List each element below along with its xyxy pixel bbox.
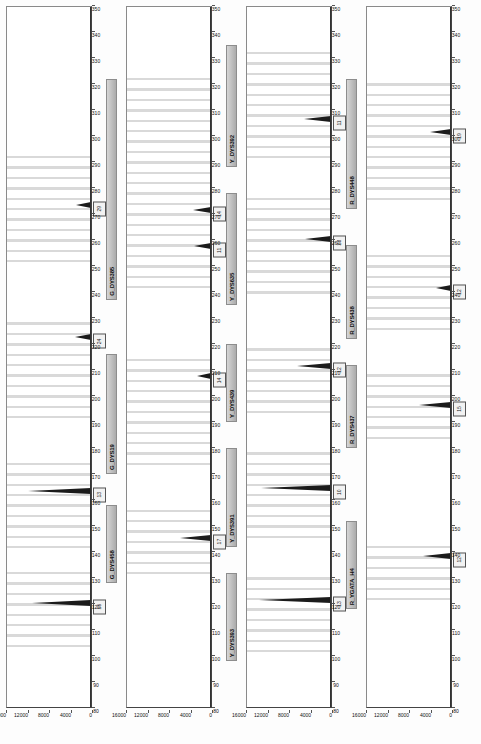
allele-bin (367, 328, 451, 330)
panel-canvas: 1310122311Y_DYS393Y_DYS391Y_DYS439Y_DYS6… (240, 0, 360, 744)
marker-bar-row: R_YGATA_H4R_DYS437R_DYS438R_DYS448 (346, 6, 358, 708)
allele-bin (127, 390, 211, 392)
axis-tick-label: 260 (332, 240, 340, 246)
marker-bar[interactable]: Y_DYS391 (226, 448, 237, 547)
allele-bin (367, 567, 451, 569)
axis-tick-label: 140 (92, 552, 100, 558)
axis-tick-label: 150 (212, 526, 220, 532)
allele-bin (7, 525, 91, 527)
allele-bin (7, 494, 91, 496)
allele-bin (367, 255, 451, 257)
rfu-tick-label: 0 (329, 712, 332, 718)
rfu-tick (6, 710, 7, 713)
plot-area[interactable] (366, 6, 452, 708)
marker-bar[interactable]: G_DYS19 (106, 354, 117, 474)
allele-bin (367, 265, 451, 267)
allele-bin (367, 187, 451, 189)
panel-y[interactable]: 1310122311Y_DYS393Y_DYS391Y_DYS439Y_DYS6… (240, 0, 360, 744)
peak[interactable] (419, 402, 451, 408)
rfu-axis: 1600012000800040000 (246, 710, 332, 744)
peak[interactable] (259, 597, 331, 603)
allele-bin (7, 250, 91, 252)
axis-tick-label: 320 (452, 84, 460, 90)
axis-tick-label: 350 (212, 6, 220, 12)
rfu-tick (126, 710, 127, 713)
peak[interactable] (304, 116, 331, 122)
axis-tick-label: 310 (92, 110, 100, 116)
allele-bin (7, 395, 91, 397)
allele-bin (367, 83, 451, 85)
axis-tick-label: 190 (92, 422, 100, 428)
peak[interactable] (180, 535, 211, 541)
allele-bin (247, 94, 331, 96)
allele-bin (7, 582, 91, 584)
panel-g[interactable]: 17141114G_DYS458G_DYS19G_DYS385809010011… (120, 0, 240, 744)
marker-bar[interactable]: Y_DYS635 (226, 193, 237, 305)
axis-tick-label: 100 (92, 656, 100, 662)
axis-tick-label: 310 (332, 110, 340, 116)
peak[interactable] (194, 243, 211, 249)
allele-bin (367, 104, 451, 106)
axis-tick-label: 250 (452, 266, 460, 272)
axis-tick-label: 120 (452, 604, 460, 610)
marker-label: R_DYS448 (347, 176, 357, 204)
marker-bar[interactable]: R_YGATA_H4 (346, 521, 357, 609)
marker-bar[interactable]: Y_DYS392 (226, 45, 237, 167)
axis-tick-label: 210 (332, 370, 340, 376)
rfu-axis: 1600012000800040000 (6, 710, 92, 744)
allele-bin (127, 572, 211, 574)
axis-tick-label: 230 (92, 318, 100, 324)
peak[interactable] (28, 488, 91, 494)
peak[interactable] (75, 334, 91, 340)
peak[interactable] (261, 485, 331, 491)
peak[interactable] (297, 363, 331, 369)
allele-bin (247, 588, 331, 590)
rfu-tick (409, 710, 410, 713)
marker-bar[interactable]: R_DYS437 (346, 365, 357, 448)
axis-tick-label: 170 (92, 474, 100, 480)
panel-r[interactable]: 12151219R_YGATA_H4R_DYS437R_DYS438R_DYS4… (360, 0, 480, 744)
plot-area[interactable] (246, 6, 332, 708)
peak[interactable] (430, 129, 451, 135)
rfu-tick (289, 710, 290, 713)
allele-bin (367, 577, 451, 579)
allele-bin (247, 452, 331, 454)
allele-bin (7, 343, 91, 345)
allele-bin (127, 400, 211, 402)
allele-bin (127, 510, 211, 512)
marker-bar[interactable]: Y_DYS439 (226, 344, 237, 422)
peak[interactable] (423, 553, 451, 559)
axis-tick-label: 230 (452, 318, 460, 324)
peak[interactable] (305, 236, 331, 242)
axis-tick-label: 280 (332, 188, 340, 194)
rfu-tick-label: 4000 (419, 712, 430, 718)
axis-tick-label: 140 (452, 552, 460, 558)
allele-bin (127, 99, 211, 101)
marker-bar[interactable]: G_DYS458 (106, 505, 117, 583)
allele-bin (127, 265, 211, 267)
marker-bar[interactable]: R_DYS448 (346, 79, 357, 209)
axis-tick-label: 280 (212, 188, 220, 194)
axis-tick-label: 220 (92, 344, 100, 350)
rfu-tick-label: 8000 (158, 712, 169, 718)
marker-bar[interactable]: G_DYS385 (106, 79, 117, 300)
allele-bin (247, 619, 331, 621)
peak[interactable] (193, 207, 211, 213)
axis-tick-label: 340 (452, 32, 460, 38)
axis-tick-label: 300 (332, 136, 340, 142)
peak[interactable] (76, 202, 91, 208)
allele-bin (127, 120, 211, 122)
panel-b[interactable]: 15132429B_DYS456B_DYS389IB_DYS390B_DYS38… (0, 0, 120, 744)
peak[interactable] (32, 600, 91, 606)
axis-tick-label: 120 (92, 604, 100, 610)
marker-label: G_DYS458 (107, 550, 117, 579)
rfu-tick (246, 710, 247, 713)
plot-area[interactable] (126, 6, 212, 708)
axis-tick-label: 320 (212, 84, 220, 90)
peak[interactable] (436, 285, 451, 291)
peak[interactable] (197, 373, 211, 379)
marker-bar[interactable]: Y_DYS393 (226, 573, 237, 661)
plot-area[interactable] (6, 6, 92, 708)
marker-bar[interactable]: R_DYS438 (346, 245, 357, 339)
axis-tick-label: 250 (92, 266, 100, 272)
